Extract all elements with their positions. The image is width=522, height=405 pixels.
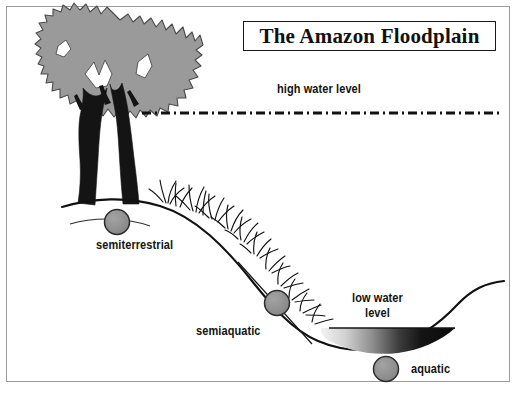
semiterrestrial-label: semiterrestrial <box>96 238 173 252</box>
figure-title-inner: The Amazon Floodplain <box>244 22 495 50</box>
semiaquatic-marker[interactable] <box>265 291 290 316</box>
aquatic-marker[interactable] <box>374 357 399 382</box>
floodplain-figure: The Amazon Floodplain high water level l… <box>0 0 522 405</box>
aquatic-label: aquatic <box>411 362 450 376</box>
low-water-level-label-line1: low water <box>352 291 403 306</box>
figure-title-box: The Amazon Floodplain <box>243 21 496 51</box>
bottom-cropped-text <box>8 392 328 401</box>
semiaquatic-label: semiaquatic <box>196 324 261 338</box>
floodplain-illustration <box>0 0 522 405</box>
low-water-level-label-line2: level <box>352 306 403 321</box>
low-water-level-label: low water level <box>352 291 403 321</box>
tree-icon <box>35 3 203 205</box>
page-title: The Amazon Floodplain <box>259 26 479 47</box>
grass-icon <box>149 180 333 324</box>
semiterrestrial-marker[interactable] <box>105 210 130 235</box>
high-water-level-label: high water level <box>277 82 361 96</box>
river-water <box>321 328 455 354</box>
